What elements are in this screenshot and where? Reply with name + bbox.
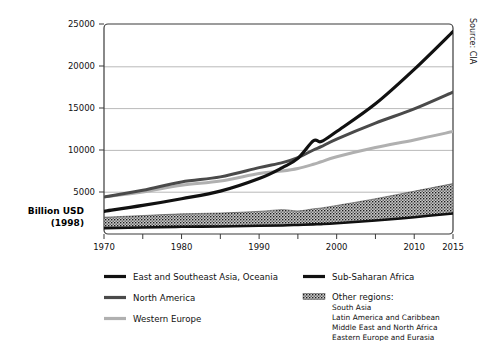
legend-label-other-regions: Other regions: <box>332 292 394 302</box>
x-tick-label-2015: 2015 <box>442 242 464 252</box>
x-tick-label-1970: 1970 <box>93 242 115 252</box>
legend-label-sub-saharan-africa: Sub-Saharan Africa <box>332 272 414 282</box>
x-tick-label-1980: 1980 <box>171 242 193 252</box>
legend-sublabel-middle-east: Middle East and North Africa <box>332 323 437 332</box>
legend-sublabel-latin-america: Latin America and Caribbean <box>332 313 440 322</box>
legend-swatch-other-regions <box>303 294 325 300</box>
chart-figure: 197019801990200020102015 500010000150002… <box>0 0 497 341</box>
x-tick-label-2010: 2010 <box>403 242 425 252</box>
source-note: Source: CIA <box>468 18 477 65</box>
legend-sublabel-south-asia: South Asia <box>332 303 371 312</box>
y-tick-label-20000: 20000 <box>68 61 95 71</box>
y-axis-title-line2: (1998) <box>51 218 84 228</box>
y-tick-label-10000: 10000 <box>68 145 95 155</box>
x-tick-label-1990: 1990 <box>248 242 270 252</box>
y-axis-title-line1: Billion USD <box>28 206 84 216</box>
legend-sublabel-eastern-europe: Eastern Europe and Eurasia <box>332 333 434 341</box>
y-tick-label-25000: 25000 <box>68 19 95 29</box>
x-tick-label-2000: 2000 <box>326 242 348 252</box>
y-tick-label-15000: 15000 <box>68 103 95 113</box>
legend-label-east-southeast-asia: East and Southeast Asia, Oceania <box>133 272 278 282</box>
y-tick-label-5000: 5000 <box>73 187 95 197</box>
legend-label-western-europe: Western Europe <box>133 314 201 324</box>
chart-svg: 197019801990200020102015 500010000150002… <box>0 0 497 341</box>
legend-label-north-america: North America <box>133 293 195 303</box>
